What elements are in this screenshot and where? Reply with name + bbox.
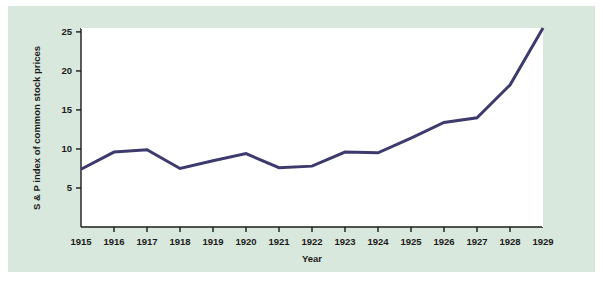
line-chart: 510152025 191519161917191819191920192119… xyxy=(0,0,603,281)
x-axis-tick-label: 1917 xyxy=(136,236,157,247)
x-axis-tick-label: 1926 xyxy=(433,236,454,247)
x-axis-title: Year xyxy=(302,253,322,264)
x-axis-tick-labels: 1915191619171918191919201921192219231924… xyxy=(70,236,553,247)
y-axis-tick-labels: 510152025 xyxy=(61,26,72,193)
x-axis-ticks xyxy=(114,227,510,232)
x-axis-tick-label: 1927 xyxy=(466,236,487,247)
x-axis-tick-label: 1922 xyxy=(301,236,322,247)
x-axis-tick-label: 1925 xyxy=(400,236,422,247)
x-axis-tick-label: 1920 xyxy=(235,236,256,247)
x-axis-tick-label: 1915 xyxy=(70,236,92,247)
x-axis-tick-label: 1919 xyxy=(202,236,223,247)
plot-top-border xyxy=(81,28,543,29)
y-axis-tick-label: 25 xyxy=(61,26,72,37)
y-axis-title: S & P index of common stock prices xyxy=(31,46,42,210)
x-axis-tick-label: 1916 xyxy=(103,236,124,247)
y-axis-tick-label: 20 xyxy=(61,65,72,76)
x-axis-tick-label: 1928 xyxy=(499,236,520,247)
y-axis-ticks xyxy=(76,32,81,188)
x-axis-tick-label: 1921 xyxy=(268,236,290,247)
x-axis-tick-label: 1929 xyxy=(532,236,553,247)
plot-right-border xyxy=(542,28,543,227)
x-axis-tick-label: 1924 xyxy=(367,236,389,247)
figure-container: 510152025 191519161917191819191920192119… xyxy=(0,0,603,281)
x-axis-tick-label: 1923 xyxy=(334,236,355,247)
y-axis-tick-label: 5 xyxy=(67,182,73,193)
plot-area-background xyxy=(81,28,543,227)
y-axis-tick-label: 15 xyxy=(61,104,72,115)
y-axis-tick-label: 10 xyxy=(61,143,72,154)
x-axis-tick-label: 1918 xyxy=(169,236,190,247)
